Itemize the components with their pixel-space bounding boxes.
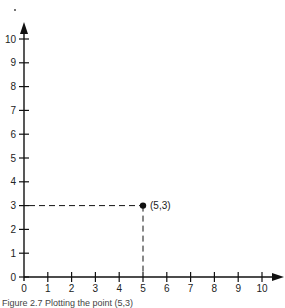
y-tick-label: 5: [10, 153, 16, 164]
y-tick-label: 1: [10, 248, 16, 259]
data-point: [140, 202, 146, 208]
y-tick-label: 7: [10, 105, 16, 116]
y-tick-label: 6: [10, 129, 16, 140]
figure-caption: Figure 2.7 Plotting the point (5,3): [2, 298, 133, 308]
x-tick-label: 7: [188, 283, 194, 294]
stray-mark: [14, 9, 16, 11]
data-points: (5,3): [29, 200, 171, 272]
x-tick-label: 2: [69, 283, 75, 294]
x-tick-label: 9: [235, 283, 241, 294]
y-tick-label: 4: [10, 176, 16, 187]
y-tick-label: 3: [10, 200, 16, 211]
x-tick-label: 6: [164, 283, 170, 294]
y-tick-label: 10: [5, 34, 17, 45]
x-tick-label: 5: [140, 283, 146, 294]
x-tick-label: 1: [45, 283, 51, 294]
axes: [14, 9, 284, 281]
ticks: 012345678910012345678910: [5, 34, 268, 295]
x-tick-label: 10: [256, 283, 268, 294]
y-axis-arrow-icon: [20, 22, 28, 34]
x-axis-arrow-icon: [272, 273, 284, 281]
y-tick-label: 0: [10, 272, 16, 283]
x-tick-label: 4: [116, 283, 122, 294]
y-tick-label: 9: [10, 57, 16, 68]
y-tick-label: 2: [10, 224, 16, 235]
x-tick-label: 3: [93, 283, 99, 294]
x-tick-label: 0: [21, 283, 27, 294]
x-tick-label: 8: [212, 283, 218, 294]
point-label: (5,3): [150, 200, 171, 211]
y-tick-label: 8: [10, 81, 16, 92]
